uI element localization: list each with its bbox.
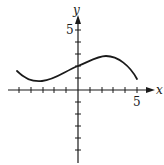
x-tick-label-5: 5	[133, 95, 141, 109]
y-axis-label: y	[72, 3, 80, 17]
x-axis-arrow-icon	[146, 87, 155, 93]
graph-figure: y x 5 5	[0, 0, 164, 165]
function-curve	[17, 56, 137, 81]
x-axis-label: x	[156, 83, 163, 97]
y-tick-label-5: 5	[66, 23, 74, 37]
